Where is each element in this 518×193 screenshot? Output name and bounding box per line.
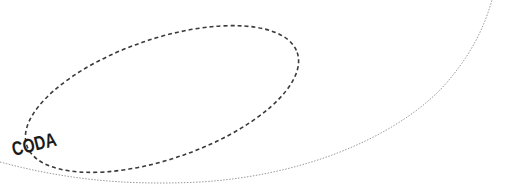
diagram-canvas: CODA (0, 0, 518, 193)
region-label: CODA (9, 128, 58, 161)
dashed-region-ellipse (7, 0, 316, 193)
dotted-boundary-curve (0, 0, 492, 183)
